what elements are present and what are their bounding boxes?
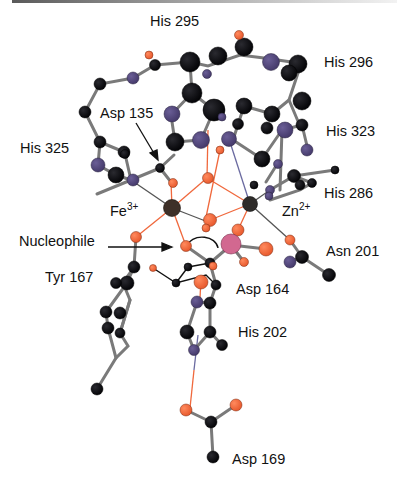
label-his323: His 323 xyxy=(326,124,375,139)
label-his202: His 202 xyxy=(238,325,287,340)
label-asp135: Asp 135 xyxy=(100,106,153,121)
zn-symbol: Zn xyxy=(282,203,299,219)
fe-symbol: Fe xyxy=(110,203,127,219)
oxygen-atoms xyxy=(131,31,296,417)
label-his295: His 295 xyxy=(150,14,199,29)
label-his296: His 296 xyxy=(324,55,373,70)
label-tyr167: Tyr 167 xyxy=(45,270,93,285)
zn-ion xyxy=(243,197,258,212)
phosphorus-atom xyxy=(221,234,241,254)
carbon-atoms xyxy=(79,38,339,463)
label-nucleophile: Nucleophile xyxy=(19,234,95,249)
label-asn201: Asn 201 xyxy=(326,244,379,259)
fe-charge: 3+ xyxy=(127,201,138,212)
label-asp164: Asp 164 xyxy=(236,282,289,297)
label-zn-ion: Zn2+ xyxy=(282,202,310,219)
label-fe-ion: Fe3+ xyxy=(110,202,138,219)
label-his286: His 286 xyxy=(324,186,373,201)
zn-charge: 2+ xyxy=(299,201,310,212)
fe-ion xyxy=(164,200,181,217)
label-asp169: Asp 169 xyxy=(232,452,285,467)
label-his325: His 325 xyxy=(20,141,69,156)
